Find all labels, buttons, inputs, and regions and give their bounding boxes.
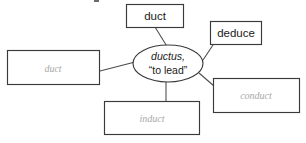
node-induct-label: induct — [140, 113, 165, 124]
connector-center-to-deduce — [203, 45, 213, 60]
node-duct-top-label: duct — [144, 10, 167, 22]
node-induct[interactable]: induct — [105, 102, 200, 135]
center-root-word: ductus, — [151, 50, 185, 62]
word-web-diagram: duct deduce conduct induct duct ductus, … — [0, 0, 306, 143]
node-duct-left[interactable]: duct — [8, 51, 100, 85]
node-conduct-label: conduct — [240, 90, 272, 101]
node-duct-top[interactable]: duct — [127, 5, 184, 28]
node-duct-left-label: duct — [44, 63, 61, 74]
connector-center-to-duct-left — [100, 62, 135, 71]
center-gloss: “to lead” — [149, 64, 188, 76]
connector-center-to-conduct — [199, 73, 214, 86]
node-deduce-label: deduce — [217, 27, 255, 39]
node-conduct[interactable]: conduct — [214, 79, 300, 113]
center-node[interactable]: ductus, “to lead” — [133, 45, 203, 82]
word-web-canvas: duct deduce conduct induct duct ductus, … — [0, 0, 306, 143]
node-deduce[interactable]: deduce — [211, 22, 262, 45]
